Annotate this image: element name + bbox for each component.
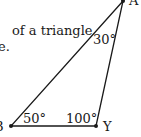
triangle-shape [11, 1, 123, 126]
vertex-b-label: B [0, 120, 4, 133]
angle-a-label: 30° [93, 33, 116, 46]
vertex-b-dot [9, 124, 13, 128]
angle-y-label: 100° [66, 112, 97, 125]
vertex-y-label: Y [103, 120, 112, 133]
angle-b-label: 50° [23, 112, 46, 125]
vertex-a-label: A [129, 0, 138, 7]
